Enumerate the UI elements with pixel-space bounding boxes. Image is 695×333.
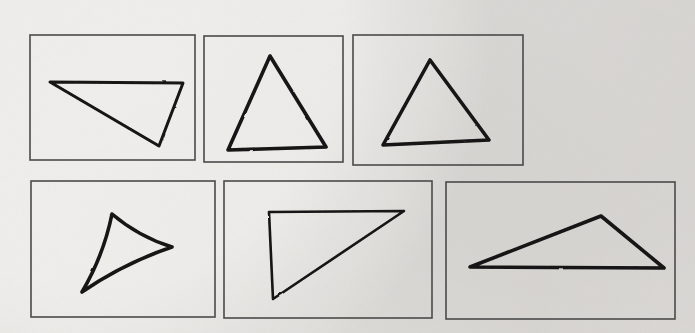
panel-6[interactable]: [0, 0, 695, 333]
panel-grid: [0, 0, 695, 333]
panel-6-triangle: [470, 216, 664, 268]
figure-canvas: [0, 0, 695, 333]
